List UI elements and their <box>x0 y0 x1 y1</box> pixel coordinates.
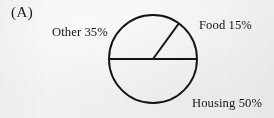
slice-label-housing: Housing 50% <box>192 97 262 110</box>
slice-label-other: Other 35% <box>52 26 108 39</box>
figure-panel: (A) Other 35% Food 15% Housing 50% <box>0 0 274 118</box>
slice-label-food: Food 15% <box>199 19 252 32</box>
slice-divider-radial <box>153 23 179 59</box>
